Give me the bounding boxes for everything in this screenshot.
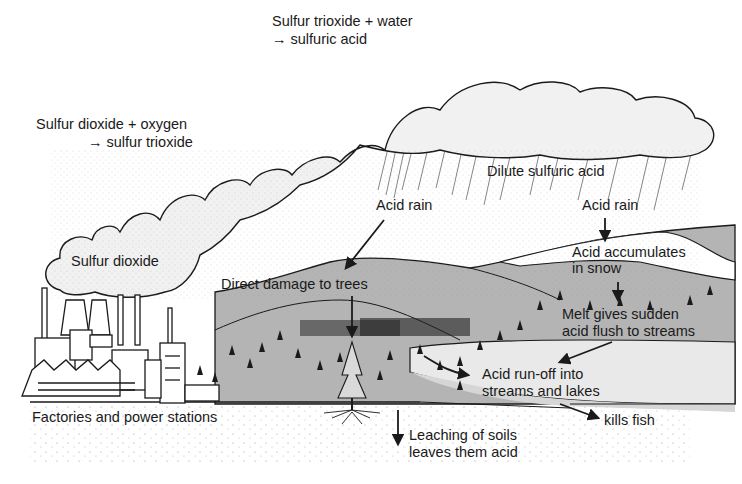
factory-icon — [22, 288, 219, 403]
label-sulfuric-acid-product: → sulfuric acid — [272, 30, 367, 48]
label-acid-rain-left: Acid rain — [376, 196, 432, 214]
label-leaves-acid: leaves them acid — [409, 443, 518, 461]
label-acid-runoff: Acid run-off into — [482, 365, 583, 383]
label-kills-fish: kills fish — [604, 411, 655, 429]
label-leaching-soils: Leaching of soils — [409, 426, 517, 444]
label-dilute-sulfuric-acid: Dilute sulfuric acid — [487, 162, 605, 180]
label-in-snow: in snow — [572, 259, 621, 277]
label-melt-sudden: Melt gives sudden — [562, 305, 679, 323]
label-acid-rain-right: Acid rain — [582, 196, 638, 214]
label-sulfur-dioxide-oxygen: Sulfur dioxide + oxygen — [36, 115, 187, 133]
label-sulfur-trioxide-product: → sulfur trioxide — [88, 133, 193, 151]
label-sulfur-trioxide-water: Sulfur trioxide + water — [272, 12, 413, 30]
acid-rain-diagram: Sulfur trioxide + water → sulfuric acid … — [0, 0, 742, 484]
label-sulfur-dioxide: Sulfur dioxide — [71, 252, 159, 270]
label-factories-power-stations: Factories and power stations — [32, 408, 217, 426]
label-streams-lakes: streams and lakes — [482, 382, 600, 400]
label-direct-damage-trees: Direct damage to trees — [221, 275, 368, 293]
label-acid-flush-streams: acid flush to streams — [562, 322, 695, 340]
